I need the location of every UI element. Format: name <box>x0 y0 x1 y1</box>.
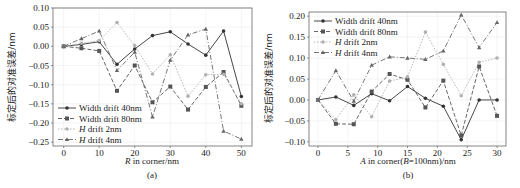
legend-label: H drift 2nm <box>78 124 122 134</box>
y-axis-label: 标定后的对准误差/nm <box>263 33 274 123</box>
marker-circle-icon <box>459 138 463 142</box>
x-tick-label: 5 <box>346 148 351 158</box>
marker-square-icon <box>388 72 392 76</box>
marker-dot-icon <box>424 30 428 34</box>
legend-label: Width drift 80nm <box>335 27 398 37</box>
marker-square-icon <box>459 134 463 138</box>
legend: Width drift 40nmWidth drift 80nmH drift … <box>58 103 142 145</box>
marker-dot-icon <box>352 93 356 97</box>
legend-label: Width drift 40nm <box>335 16 398 26</box>
chart-panel-a: 010203040500.100.050.00−0.05−0.10−0.15−0… <box>6 3 252 180</box>
x-tick-label: 25 <box>463 148 473 158</box>
marker-triangle-icon <box>405 56 409 60</box>
legend-item: Width drift 40nm <box>314 16 398 26</box>
marker-triangle-icon <box>441 49 445 53</box>
x-tick-label: 30 <box>493 148 503 158</box>
y-axis-label: 标定后的对准误差/nm <box>6 32 17 122</box>
legend-item: Width drift 80nm <box>58 114 142 124</box>
legend: Width drift 40nmWidth drift 80nmH drift … <box>314 16 398 58</box>
x-tick-label: 10 <box>95 148 105 158</box>
legend-item: Width drift 80nm <box>314 27 398 37</box>
y-tick-label: 0.10 <box>33 3 49 13</box>
marker-dot-icon <box>240 102 244 106</box>
marker-circle-icon <box>115 63 119 67</box>
x-tick-label: 0 <box>316 148 321 158</box>
marker-triangle-icon <box>186 33 190 37</box>
marker-circle-icon <box>477 98 481 102</box>
marker-triangle-icon <box>221 129 225 133</box>
y-tick-label: 0.05 <box>33 22 49 32</box>
marker-dot-icon <box>495 56 499 60</box>
y-tick-label: 0.10 <box>289 53 305 63</box>
marker-dot-icon <box>80 41 84 45</box>
marker-circle-icon <box>65 106 69 110</box>
x-tick-label: 50 <box>237 148 247 158</box>
marker-square-icon <box>97 49 101 53</box>
marker-dot-icon <box>334 118 338 122</box>
legend-label: H drift 4nm <box>334 48 378 58</box>
marker-circle-icon <box>352 104 356 108</box>
marker-square-icon <box>321 30 325 34</box>
marker-circle-icon <box>495 98 499 102</box>
marker-triangle-icon <box>239 137 243 141</box>
y-tick-label: −0.05 <box>28 61 49 71</box>
panel-label: (b) <box>403 170 414 180</box>
marker-square-icon <box>495 114 499 118</box>
marker-triangle-icon <box>352 99 356 103</box>
y-tick-label: 0.05 <box>289 74 305 84</box>
legend-item: H drift 2nm <box>314 37 378 47</box>
marker-square-icon <box>151 100 155 104</box>
x-tick-label: 40 <box>201 148 211 158</box>
marker-square-icon <box>204 85 208 89</box>
series-h-drift-2nm <box>62 21 243 106</box>
marker-circle-icon <box>151 34 155 38</box>
marker-square-icon <box>186 108 190 112</box>
legend-label: H drift 2nm <box>334 37 378 47</box>
marker-square-icon <box>352 122 356 126</box>
legend-item: Width drift 40nm <box>58 103 142 113</box>
marker-dot-icon <box>65 127 69 131</box>
marker-circle-icon <box>334 95 338 99</box>
marker-dot-icon <box>97 39 101 43</box>
marker-dot-icon <box>388 79 392 83</box>
marker-dot-icon <box>406 75 410 79</box>
marker-dot-icon <box>168 53 172 57</box>
y-tick-label: −0.20 <box>28 118 49 128</box>
y-axis-ticks: 0.100.050.00−0.05−0.10−0.15−0.20−0.25 <box>28 3 53 147</box>
marker-dot-icon <box>477 60 481 64</box>
y-tick-label: −0.10 <box>28 80 49 90</box>
x-tick-label: 0 <box>61 148 66 158</box>
marker-square-icon <box>115 89 119 93</box>
legend-item: H drift 4nm <box>314 48 378 58</box>
marker-dot-icon <box>370 115 374 119</box>
marker-square-icon <box>168 85 172 89</box>
marker-square-icon <box>133 64 137 68</box>
y-tick-label: −0.05 <box>284 116 305 126</box>
marker-triangle-icon <box>459 13 463 17</box>
y-tick-label: −0.25 <box>28 137 49 147</box>
marker-dot-icon <box>186 94 190 98</box>
marker-triangle-icon <box>477 45 481 49</box>
marker-square-icon <box>65 117 69 121</box>
chart-panel-b: 0510152025300.200.150.100.050.00−0.05−0.… <box>263 11 506 180</box>
marker-circle-icon <box>442 104 446 108</box>
y-tick-label: 0.00 <box>289 95 305 105</box>
marker-dot-icon <box>133 44 137 48</box>
marker-square-icon <box>477 64 481 68</box>
marker-square-icon <box>441 79 445 83</box>
legend-label: Width drift 40nm <box>79 103 142 113</box>
y-tick-label: −0.15 <box>28 99 49 109</box>
marker-dot-icon <box>442 63 446 67</box>
y-axis-ticks: 0.200.150.100.050.00−0.05−0.10 <box>284 11 309 147</box>
marker-square-icon <box>79 46 83 50</box>
marker-dot-icon <box>204 73 208 77</box>
marker-circle-icon <box>424 96 428 100</box>
marker-circle-icon <box>204 53 208 57</box>
marker-triangle-icon <box>150 115 154 119</box>
figure-canvas: 010203040500.100.050.00−0.05−0.10−0.15−0… <box>0 0 520 188</box>
x-axis-label: A in corner(B=100nm)/nm <box>359 156 456 166</box>
marker-square-icon <box>423 105 427 109</box>
marker-circle-icon <box>222 29 226 33</box>
y-tick-label: 0.00 <box>33 41 49 51</box>
marker-circle-icon <box>321 19 325 23</box>
